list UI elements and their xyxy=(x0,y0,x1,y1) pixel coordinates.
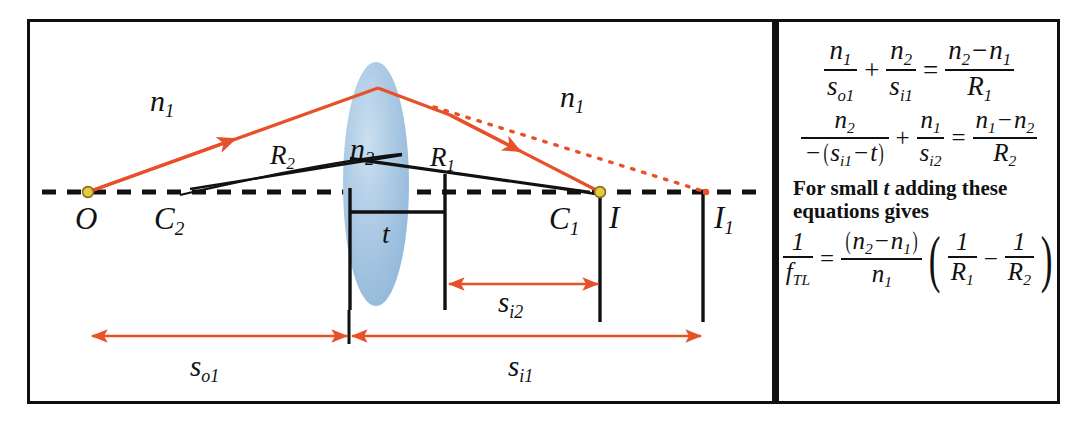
incident-ray-arrow xyxy=(88,139,235,192)
label-n2-lens: n2 xyxy=(350,134,374,169)
eq3-term-r2: 1 R2 xyxy=(1005,229,1034,289)
eq3-lhs: 1 fTL xyxy=(783,229,813,289)
eq2-term2: n1 si2 xyxy=(917,107,945,170)
eq1-term2: n2 si1 xyxy=(886,36,916,105)
label-n1-left: n1 xyxy=(150,86,174,121)
label-point-C2: C2 xyxy=(154,203,184,238)
eq2-rhs: n1−n2 R2 xyxy=(973,107,1038,170)
eq3-index-fraction: (n2−n1) n1 xyxy=(841,228,922,291)
note-line2: equations gives xyxy=(793,199,929,223)
object-point-dot xyxy=(83,187,94,198)
label-point-I1: I1 xyxy=(714,202,734,237)
refracted-ray-arrow xyxy=(450,115,520,151)
label-R1: R1 xyxy=(430,144,455,175)
equation-3: 1 fTL = (n2−n1) n1 ( 1 R1 − 1 xyxy=(791,228,1047,291)
eq2-term1: n2 −(si1−t) xyxy=(801,107,889,170)
eq3-term-r1: 1 R1 xyxy=(948,229,977,289)
eq1-equals: = xyxy=(918,55,943,86)
label-so1: so1 xyxy=(190,352,219,385)
virtual-ray-dotted xyxy=(434,107,706,192)
eq1-rhs: n2−n1 R1 xyxy=(945,36,1014,105)
eq3-group-minus: − xyxy=(979,245,1003,273)
label-si2: si2 xyxy=(498,288,523,321)
eq3-group-close: ) xyxy=(1041,234,1053,284)
ray-diagram-svg xyxy=(30,22,772,401)
note-text: For small t adding these equations gives xyxy=(793,177,1047,224)
label-si1: si1 xyxy=(508,352,533,385)
ray-diagram-panel: n1 n1 n2 R2 R1 O C2 C1 I I1 t si2 so1 si… xyxy=(27,19,775,404)
note-line1: For small t adding these xyxy=(793,176,1007,200)
label-R2: R2 xyxy=(270,142,295,173)
eq3-group-open: ( xyxy=(929,234,941,284)
figure-root: n1 n1 n2 R2 R1 O C2 C1 I I1 t si2 so1 si… xyxy=(0,0,1084,425)
label-point-C1: C1 xyxy=(549,203,579,238)
eq3-equals: = xyxy=(815,245,839,273)
eq1-plus: + xyxy=(859,55,884,86)
eq2-plus: + xyxy=(891,124,915,152)
equation-1: n1 so1 + n2 si1 = n2−n1 R1 xyxy=(791,36,1047,105)
label-n1-right: n1 xyxy=(560,82,584,117)
image-point-dot xyxy=(595,187,606,198)
image1-point-dot xyxy=(703,189,709,195)
eq2-equals: = xyxy=(946,124,970,152)
label-thickness-t: t xyxy=(382,220,390,248)
equations-panel: n1 so1 + n2 si1 = n2−n1 R1 xyxy=(775,19,1060,404)
equation-2: n2 −(si1−t) + n1 si2 = n1−n2 R2 xyxy=(791,107,1047,170)
label-point-O: O xyxy=(75,203,97,238)
eq1-term1: n1 so1 xyxy=(824,36,857,105)
label-point-I: I xyxy=(609,202,619,237)
